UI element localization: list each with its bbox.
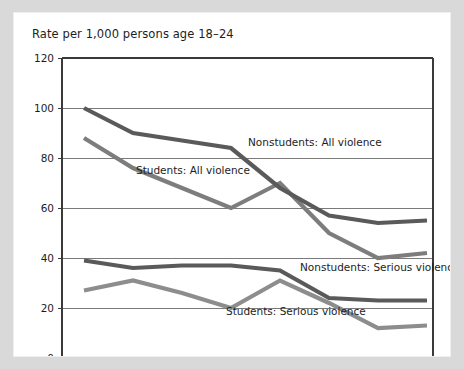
y-tick-label-120: 120	[34, 52, 54, 64]
y-tick-label-20: 20	[41, 302, 54, 314]
series-label-students-serious-violence: Students: Serious violence	[226, 305, 366, 317]
series-label-nonstudents-all-violence: Nonstudents: All violence	[248, 136, 382, 148]
series-annotations: Nonstudents: All violence Students: All …	[136, 136, 450, 317]
y-tick-label-0: 0	[47, 352, 54, 356]
chart-plot-area: 120 100 80 60 40 20 0 1995 1996	[14, 13, 450, 356]
series-label-students-all-violence: Students: All violence	[136, 164, 250, 176]
y-tick-label-100: 100	[34, 102, 54, 114]
series-label-nonstudents-serious-violence: Nonstudents: Serious violence	[300, 261, 450, 273]
y-tick-label-80: 80	[41, 152, 54, 164]
y-tick-label-60: 60	[41, 202, 54, 214]
series-line-students-all-violence	[84, 138, 427, 258]
y-axis-tick-labels: 120 100 80 60 40 20 0	[34, 52, 54, 356]
y-tick-label-40: 40	[41, 252, 54, 264]
chart-figure: Rate per 1,000 persons age 18–24	[14, 13, 450, 356]
line-chart-svg: 120 100 80 60 40 20 0 1995 1996	[14, 13, 450, 356]
